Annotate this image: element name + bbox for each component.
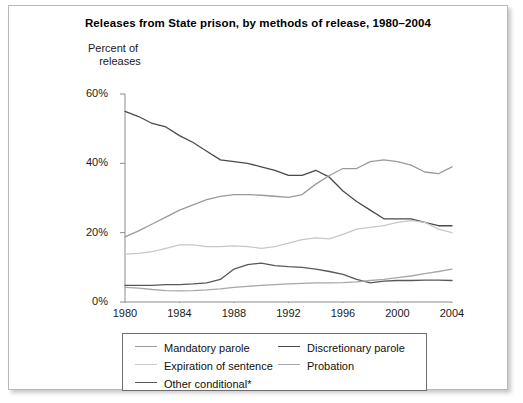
legend-item-other-conditional-[interactable]: Other conditional*	[135, 377, 251, 390]
legend-item-label: Discretionary parole	[307, 342, 405, 354]
legend-swatch-icon	[135, 382, 157, 383]
y-axis-tick-label: 20%	[74, 226, 108, 238]
x-axis-tick-label: 1980	[105, 307, 145, 319]
y-axis-label-line1: Percent of	[88, 42, 168, 55]
legend-item-mandatory-parole[interactable]: Mandatory parole	[135, 341, 250, 354]
y-axis-tick-label: 40%	[74, 156, 108, 168]
legend-swatch-icon	[135, 346, 157, 347]
series-line-mandatory-parole	[125, 160, 452, 237]
legend-item-label: Mandatory parole	[164, 342, 250, 354]
x-axis-tick-label: 1984	[160, 307, 200, 319]
legend-swatch-icon	[278, 364, 300, 365]
legend-item-label: Expiration of sentence	[164, 360, 273, 372]
legend-item-probation[interactable]: Probation	[278, 359, 354, 372]
series-line-other-conditional	[125, 263, 452, 285]
screenshot-root: Releases from State prison, by methods o…	[0, 0, 523, 403]
chart-card: Releases from State prison, by methods o…	[8, 5, 508, 390]
legend-item-expiration-of-sentence[interactable]: Expiration of sentence	[135, 359, 273, 372]
legend-item-discretionary-parole[interactable]: Discretionary parole	[278, 341, 405, 354]
y-axis-tick-label: 0%	[74, 295, 108, 307]
y-axis-label-line2: releases	[88, 55, 152, 68]
x-axis-tick-label: 1992	[269, 307, 309, 319]
legend-swatch-icon	[135, 364, 157, 365]
legend-swatch-icon	[278, 346, 300, 347]
y-axis-label: Percent of releases	[88, 42, 168, 68]
legend-item-label: Other conditional*	[164, 378, 251, 390]
line-chart-svg	[117, 88, 453, 303]
chart-legend: Mandatory paroleDiscretionary paroleExpi…	[122, 333, 427, 391]
x-axis-tick-label: 1988	[214, 307, 254, 319]
series-line-discretionary-parole	[125, 111, 452, 225]
x-axis-tick-label: 2000	[378, 307, 418, 319]
plot-area	[117, 88, 453, 303]
page-title: Releases from State prison, by methods o…	[9, 17, 507, 29]
legend-item-label: Probation	[307, 360, 354, 372]
x-axis-tick-label: 1996	[323, 307, 363, 319]
x-axis-tick-label: 2004	[432, 307, 472, 319]
y-axis-tick-label: 60%	[74, 87, 108, 99]
series-line-expiration-of-sentence	[125, 221, 452, 255]
